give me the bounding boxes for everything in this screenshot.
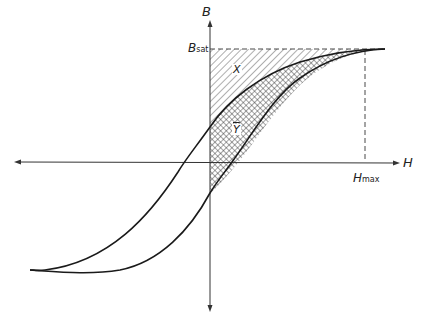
bsat-main: B — [188, 41, 196, 55]
h-axis-label: H — [403, 156, 413, 169]
upper-branch-curve — [30, 49, 385, 270]
b-axis-arrow-up-icon — [208, 20, 213, 27]
h-axis-arrow-right-icon — [393, 161, 400, 166]
b-axis-label: B — [202, 5, 211, 18]
hmax-main: H — [353, 171, 362, 185]
hmax-sub: max — [362, 175, 379, 184]
bsat-sub: sat — [196, 45, 208, 54]
hmax-label: Hmax — [353, 172, 379, 184]
lower-branch-curve — [30, 49, 385, 273]
h-axis — [18, 162, 396, 163]
h-axis-arrow-left-icon — [14, 160, 21, 165]
region-x-label: X — [232, 64, 242, 75]
b-axis-arrow-down-icon — [208, 305, 213, 312]
bsat-label: Bsat — [188, 42, 208, 54]
region-y-label: Y — [232, 124, 241, 135]
hysteresis-diagram — [0, 0, 421, 322]
